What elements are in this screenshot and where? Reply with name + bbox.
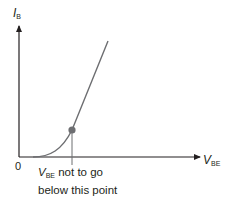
y-axis-subscript: B bbox=[16, 13, 21, 20]
x-axis-symbol: V bbox=[203, 153, 211, 167]
origin-label: 0 bbox=[15, 160, 21, 172]
annotation-text-1: not to go bbox=[58, 166, 103, 178]
annotation-subscript: BE bbox=[46, 172, 55, 179]
threshold-point bbox=[68, 126, 75, 133]
annotation-symbol: V bbox=[38, 166, 46, 178]
x-axis-subscript: BE bbox=[211, 160, 220, 167]
y-axis-label: IB bbox=[13, 6, 21, 20]
x-axis-label: VBE bbox=[203, 153, 220, 167]
annotation-line-2: below this point bbox=[38, 183, 117, 197]
threshold-annotation: VBE not to go below this point bbox=[38, 165, 117, 197]
ib-vbe-curve bbox=[33, 41, 108, 157]
annotation-line-1: VBE not to go bbox=[38, 165, 117, 183]
